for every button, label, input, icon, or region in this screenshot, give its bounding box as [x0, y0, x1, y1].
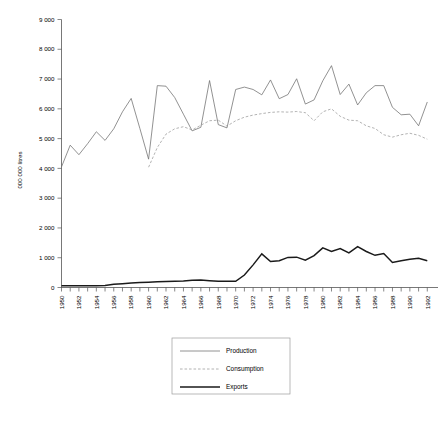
chart-figure: 01 0002 0003 0004 0005 0006 0007 0008 00… [0, 0, 444, 424]
y-axis-tick-label: 7 000 [39, 75, 55, 82]
y-axis-tick-label: 1 000 [39, 254, 55, 261]
series-line-production [62, 66, 428, 167]
x-axis-tick-label: 1952 [75, 295, 82, 309]
y-axis: 01 0002 0003 0004 0005 0006 0007 0008 00… [39, 16, 61, 291]
series-lines [62, 66, 428, 286]
y-axis-title-label: 000 000 litres [16, 151, 23, 188]
x-axis-tick-label: 1990 [406, 295, 413, 309]
x-axis-tick-label: 1972 [249, 295, 256, 309]
x-axis-tick-label: 1976 [284, 295, 291, 309]
x-axis-tick-label: 1968 [215, 295, 222, 309]
y-axis-tick-label: 0 [51, 284, 55, 291]
x-axis-tick-label: 1970 [232, 295, 239, 309]
x-axis-tick-label: 1988 [389, 295, 396, 309]
x-axis-tick-label: 1958 [127, 295, 134, 309]
x-axis-tick-label: 1966 [197, 295, 204, 309]
x-axis: 1950195219541956195819601962196419661968… [58, 288, 438, 310]
y-axis-tick-label: 6 000 [39, 105, 55, 112]
x-axis-tick-label: 1950 [58, 295, 65, 309]
y-axis-tick-label: 2 000 [39, 224, 55, 231]
series-line-consumption [149, 109, 428, 167]
x-axis-tick-label: 1982 [336, 295, 343, 309]
x-axis-tick-label: 1978 [302, 295, 309, 309]
y-axis-tick-label: 5 000 [39, 135, 55, 142]
y-axis-tick-label: 9 000 [39, 16, 55, 23]
x-axis-tick-label: 1960 [145, 295, 152, 309]
y-axis-title: 000 000 litres [16, 151, 23, 188]
x-axis-tick-label: 1954 [93, 295, 100, 309]
series-line-exports [62, 247, 428, 286]
x-axis-tick-label: 1964 [180, 295, 187, 309]
legend-label-production: Production [226, 347, 257, 354]
legend-label-exports: Exports [226, 383, 248, 391]
y-axis-tick-label: 4 000 [39, 165, 55, 172]
chart-legend: ProductionConsumptionExports [172, 338, 290, 394]
x-axis-tick-label: 1984 [354, 295, 361, 309]
x-axis-tick-label: 1980 [319, 295, 326, 309]
x-axis-tick-label: 1986 [371, 295, 378, 309]
legend-label-consumption: Consumption [226, 365, 264, 373]
x-axis-tick-label: 1974 [267, 295, 274, 309]
y-axis-tick-label: 3 000 [39, 194, 55, 201]
y-axis-tick-label: 8 000 [39, 45, 55, 52]
x-axis-tick-label: 1956 [110, 295, 117, 309]
x-axis-tick-label: 1992 [424, 295, 431, 309]
x-axis-tick-label: 1962 [162, 295, 169, 309]
line-chart-svg: 01 0002 0003 0004 0005 0006 0007 0008 00… [0, 0, 444, 424]
